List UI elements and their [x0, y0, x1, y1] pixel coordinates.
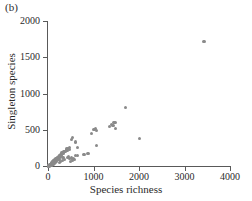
data-point [76, 146, 79, 149]
y-tick-1500 [43, 57, 47, 58]
data-point [124, 106, 127, 109]
data-point [86, 152, 89, 155]
data-point [138, 137, 141, 140]
y-tick-2000 [43, 21, 47, 22]
x-tick-label-0: 0 [27, 172, 69, 182]
panel-label: (b) [5, 2, 18, 13]
data-point [82, 153, 85, 156]
x-tick-label-4000: 4000 [209, 172, 251, 182]
y-tick-label-0: 0 [0, 161, 40, 171]
y-tick-1000 [43, 94, 47, 95]
y-tick-500 [43, 130, 47, 131]
y-tick-label-500: 500 [0, 125, 40, 135]
data-point [202, 40, 205, 43]
figure-panel-b: (b) Singleton species Species richness 0… [0, 0, 252, 201]
x-axis-label: Species richness [0, 184, 252, 195]
y-tick-label-1000: 1000 [0, 89, 40, 99]
data-point [47, 164, 50, 167]
x-tick-label-2000: 2000 [118, 172, 160, 182]
x-tick-label-1000: 1000 [73, 172, 115, 182]
data-point [95, 129, 98, 132]
y-tick-label-2000: 2000 [0, 16, 40, 26]
y-tick-label-1500: 1500 [0, 52, 40, 62]
x-tick-label-3000: 3000 [164, 172, 206, 182]
